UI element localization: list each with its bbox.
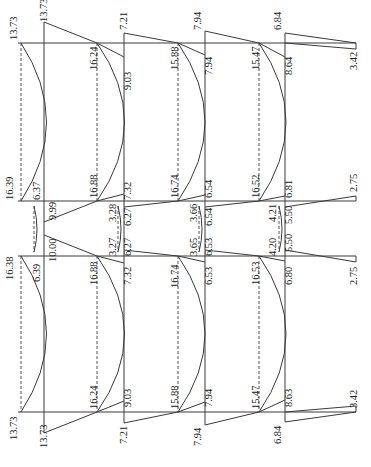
label: 6.37 [31, 182, 42, 200]
label: 6.84 [272, 11, 283, 30]
label: 8.64 [283, 56, 294, 75]
label: 13.73 [8, 416, 19, 440]
label: 7.94 [192, 427, 203, 446]
label: 6.27 [122, 208, 133, 226]
label: 15.88 [169, 46, 180, 70]
label: 7.32 [122, 267, 133, 285]
label: 7.94 [203, 388, 214, 407]
label: 16.88 [88, 261, 99, 285]
label: 6.81 [283, 180, 294, 198]
label: 15.88 [169, 385, 180, 409]
label: 6.53 [203, 238, 214, 256]
label: 6.54 [203, 207, 214, 226]
label: 16.52 [250, 174, 261, 198]
label: 6.84 [272, 425, 283, 444]
label: 9.99 [47, 202, 58, 220]
label: 3.42 [348, 52, 359, 70]
label: 6.80 [283, 267, 294, 285]
label: 5.50 [283, 234, 294, 252]
label: 7.21 [118, 426, 129, 444]
label: 4.21 [267, 204, 278, 222]
value-labels: 13.73 13.73 16.24 9.03 7.21 15.88 7.94 7… [4, 0, 359, 448]
label: 6.39 [31, 264, 42, 282]
label: 9.03 [122, 72, 133, 90]
label: 13.73 [38, 0, 49, 22]
label: 16.74 [169, 174, 180, 198]
label: 7.94 [203, 56, 214, 75]
diagram-canvas: 13.73 13.73 16.24 9.03 7.21 15.88 7.94 7… [0, 0, 371, 467]
label: 3.65 [188, 238, 199, 256]
label: 7.32 [122, 182, 133, 200]
label: 16.39 [4, 176, 15, 200]
label: 7.21 [118, 12, 129, 30]
column-moment-lines [44, 22, 356, 433]
moment-diagram: 13.73 13.73 16.24 9.03 7.21 15.88 7.94 7… [0, 0, 371, 467]
label: 7.94 [192, 11, 203, 30]
label: 16.74 [169, 264, 180, 288]
label: 3.27 [107, 238, 118, 256]
label: 6.53 [203, 267, 214, 285]
label: 16.38 [4, 256, 15, 280]
label: 8.63 [283, 389, 294, 407]
label: 3.66 [188, 204, 199, 222]
label: 4.20 [267, 238, 278, 256]
label: 6.27 [122, 238, 133, 256]
label: 6.54 [203, 179, 214, 198]
label: 10.00 [47, 238, 58, 262]
horizontal-lines [18, 43, 356, 412]
label: 9.03 [122, 389, 133, 407]
label: 16.88 [88, 174, 99, 198]
label: 16.24 [88, 385, 99, 409]
label: 2.75 [348, 267, 359, 285]
label: 15.47 [250, 46, 261, 70]
label: 15.47 [250, 385, 261, 409]
label: 16.53 [250, 261, 261, 285]
dashed-baselines [21, 43, 279, 412]
label: 3.42 [348, 390, 359, 408]
label: 2.75 [348, 174, 359, 192]
label: 13.73 [8, 16, 19, 40]
label: 16.24 [88, 46, 99, 70]
beam-curves [21, 43, 286, 412]
column-lines [44, 22, 285, 433]
label: 5.50 [283, 206, 294, 224]
label: 13.73 [38, 424, 49, 448]
label: 3.28 [107, 204, 118, 222]
